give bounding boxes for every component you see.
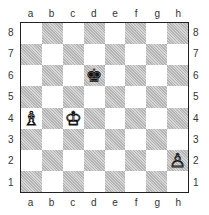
square-h2[interactable]: ♙ (167, 150, 188, 171)
rank-label-7: 7 (193, 43, 199, 64)
square-d8[interactable] (84, 23, 105, 44)
square-f5[interactable] (125, 86, 146, 107)
file-label-c: c (62, 8, 83, 19)
square-c5[interactable] (63, 86, 84, 107)
square-c2[interactable] (63, 150, 84, 171)
file-label-h: h (168, 197, 189, 208)
file-label-e: e (105, 8, 126, 19)
square-f1[interactable] (125, 171, 146, 192)
file-label-f: f (126, 197, 147, 208)
square-b2[interactable] (42, 150, 63, 171)
rank-label-2: 2 (193, 150, 199, 171)
rank-label-2: 2 (8, 150, 14, 171)
white-pawn-icon[interactable]: ♙ (169, 151, 186, 170)
square-f6[interactable] (125, 65, 146, 86)
square-f8[interactable] (125, 23, 146, 44)
file-label-a: a (20, 197, 41, 208)
square-e1[interactable] (105, 171, 126, 192)
square-f7[interactable] (125, 44, 146, 65)
rank-label-4: 4 (193, 108, 199, 129)
rank-label-5: 5 (193, 86, 199, 107)
file-label-g: g (147, 197, 168, 208)
square-a8[interactable] (21, 23, 42, 44)
square-a6[interactable] (21, 65, 42, 86)
file-label-g: g (147, 8, 168, 19)
square-g7[interactable] (146, 44, 167, 65)
square-b1[interactable] (42, 171, 63, 192)
square-d4[interactable] (84, 108, 105, 129)
square-g3[interactable] (146, 129, 167, 150)
black-king-icon[interactable]: ♚ (86, 66, 103, 85)
square-b5[interactable] (42, 86, 63, 107)
square-b6[interactable] (42, 65, 63, 86)
square-h4[interactable] (167, 108, 188, 129)
square-a7[interactable] (21, 44, 42, 65)
square-a1[interactable] (21, 171, 42, 192)
rank-label-1: 1 (193, 172, 199, 193)
square-g1[interactable] (146, 171, 167, 192)
square-e5[interactable] (105, 86, 126, 107)
square-d2[interactable] (84, 150, 105, 171)
square-d6[interactable]: ♚ (84, 65, 105, 86)
square-d5[interactable] (84, 86, 105, 107)
square-g8[interactable] (146, 23, 167, 44)
rank-label-3: 3 (193, 129, 199, 150)
square-b8[interactable] (42, 23, 63, 44)
square-g2[interactable] (146, 150, 167, 171)
file-label-a: a (20, 8, 41, 19)
square-b4[interactable] (42, 108, 63, 129)
white-king-icon[interactable]: ♔ (65, 109, 82, 128)
file-label-f: f (126, 8, 147, 19)
square-c1[interactable] (63, 171, 84, 192)
rank-label-6: 6 (193, 65, 199, 86)
square-e2[interactable] (105, 150, 126, 171)
square-e4[interactable] (105, 108, 126, 129)
square-d7[interactable] (84, 44, 105, 65)
file-label-d: d (83, 8, 104, 19)
rank-label-5: 5 (8, 86, 14, 107)
rank-label-8: 8 (8, 22, 14, 43)
file-label-b: b (41, 197, 62, 208)
square-h3[interactable] (167, 129, 188, 150)
square-d3[interactable] (84, 129, 105, 150)
square-a4[interactable]: ♗ (21, 108, 42, 129)
square-h1[interactable] (167, 171, 188, 192)
rank-label-3: 3 (8, 129, 14, 150)
rank-label-7: 7 (8, 43, 14, 64)
square-e6[interactable] (105, 65, 126, 86)
square-f3[interactable] (125, 129, 146, 150)
file-label-h: h (168, 8, 189, 19)
square-h8[interactable] (167, 23, 188, 44)
square-b3[interactable] (42, 129, 63, 150)
square-h7[interactable] (167, 44, 188, 65)
square-g4[interactable] (146, 108, 167, 129)
file-label-d: d (83, 197, 104, 208)
square-c6[interactable] (63, 65, 84, 86)
white-bishop-icon[interactable]: ♗ (23, 109, 40, 128)
square-a5[interactable] (21, 86, 42, 107)
file-label-e: e (105, 197, 126, 208)
square-c7[interactable] (63, 44, 84, 65)
square-e7[interactable] (105, 44, 126, 65)
square-c4[interactable]: ♔ (63, 108, 84, 129)
chess-board: ♚♗♔♙ (20, 22, 189, 193)
square-a3[interactable] (21, 129, 42, 150)
square-c3[interactable] (63, 129, 84, 150)
square-f4[interactable] (125, 108, 146, 129)
square-h5[interactable] (167, 86, 188, 107)
square-f2[interactable] (125, 150, 146, 171)
square-b7[interactable] (42, 44, 63, 65)
square-h6[interactable] (167, 65, 188, 86)
rank-label-1: 1 (8, 172, 14, 193)
rank-label-8: 8 (193, 22, 199, 43)
square-d1[interactable] (84, 171, 105, 192)
file-label-c: c (62, 197, 83, 208)
rank-label-4: 4 (8, 108, 14, 129)
square-e8[interactable] (105, 23, 126, 44)
square-a2[interactable] (21, 150, 42, 171)
square-c8[interactable] (63, 23, 84, 44)
rank-label-6: 6 (8, 65, 14, 86)
square-g6[interactable] (146, 65, 167, 86)
square-g5[interactable] (146, 86, 167, 107)
square-e3[interactable] (105, 129, 126, 150)
